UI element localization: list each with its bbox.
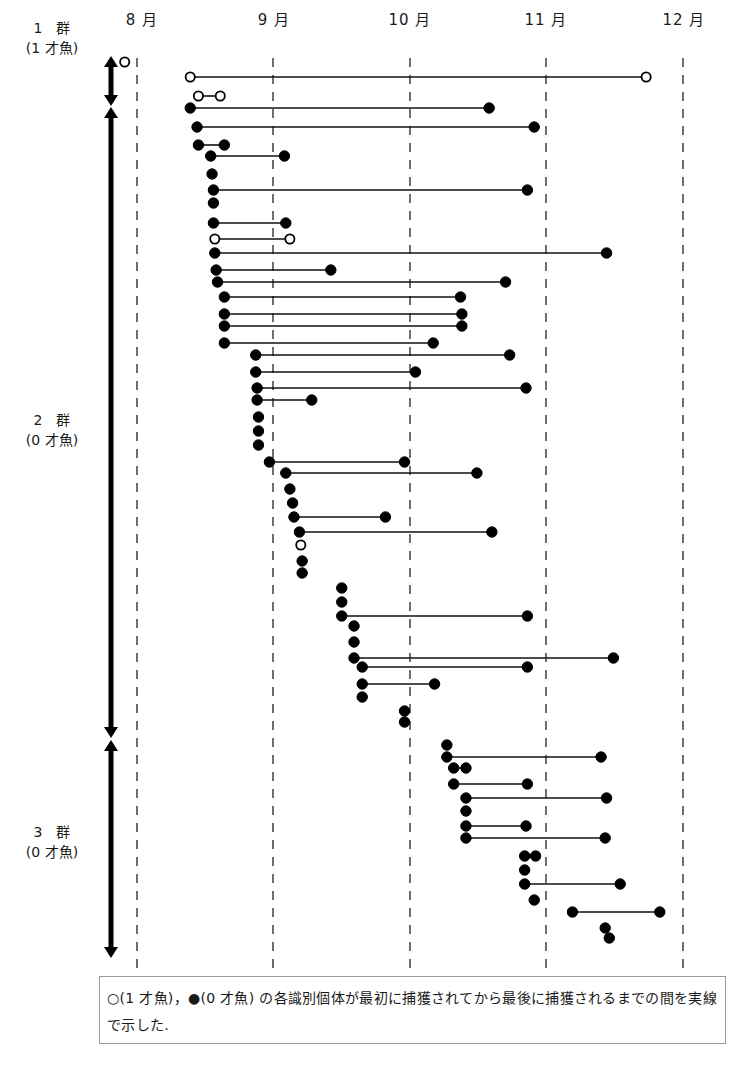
filled-circle-icon xyxy=(461,806,471,816)
filled-circle-icon xyxy=(349,621,359,631)
filled-circle-icon xyxy=(357,692,367,702)
month-label-oct: 10 月 xyxy=(389,8,432,29)
filled-circle-icon xyxy=(212,277,222,287)
capture-record-19 xyxy=(219,338,438,348)
capture-record-11 xyxy=(208,218,291,228)
group-1-label: 1 群 (1 才魚) xyxy=(2,18,102,58)
open-circle-icon xyxy=(642,72,651,81)
arrow-down-icon xyxy=(104,947,118,958)
group-arrows xyxy=(104,56,118,958)
filled-circle-icon xyxy=(399,457,409,467)
filled-circle-icon xyxy=(219,140,229,150)
open-circle-icon xyxy=(216,91,225,100)
filled-circle-icon xyxy=(529,895,539,905)
arrow-up-icon xyxy=(104,740,118,751)
capture-record-21 xyxy=(251,367,421,377)
capture-record-42 xyxy=(357,662,533,672)
capture-record-38 xyxy=(337,611,533,621)
capture-record-59 xyxy=(567,907,665,917)
filled-circle-icon xyxy=(461,833,471,843)
filled-circle-icon xyxy=(208,185,218,195)
group-3-range-arrow xyxy=(104,740,118,958)
capture-timeline-chart xyxy=(0,0,738,1068)
capture-record-16 xyxy=(219,292,466,302)
filled-circle-icon xyxy=(380,512,390,522)
filled-circle-icon xyxy=(522,662,532,672)
group-1-title: 1 群 xyxy=(2,18,102,38)
filled-circle-icon xyxy=(337,583,347,593)
capture-record-15 xyxy=(212,277,510,287)
filled-circle-icon xyxy=(211,265,221,275)
capture-record-39 xyxy=(349,621,359,631)
filled-circle-icon xyxy=(410,367,420,377)
capture-record-1 xyxy=(120,57,129,66)
capture-record-27 xyxy=(264,457,410,467)
filled-circle-icon xyxy=(285,484,295,494)
group-1-range-arrow xyxy=(104,56,118,106)
filled-circle-icon xyxy=(253,412,263,422)
capture-record-25 xyxy=(253,426,263,436)
capture-record-26 xyxy=(253,440,263,450)
filled-circle-icon xyxy=(287,498,297,508)
capture-record-13 xyxy=(210,248,612,258)
capture-record-35 xyxy=(297,568,307,578)
filled-circle-icon xyxy=(219,321,229,331)
filled-circle-icon xyxy=(192,122,202,132)
capture-record-24 xyxy=(253,412,263,422)
filled-circle-icon xyxy=(519,851,529,861)
capture-record-23 xyxy=(252,395,317,405)
figure-caption: ○(1 才魚)，●(0 才魚) の各識別個体が最初に捕獲されてから最後に捕獲され… xyxy=(99,976,726,1044)
capture-record-20 xyxy=(251,350,515,360)
filled-circle-icon xyxy=(252,383,262,393)
filled-circle-icon xyxy=(251,367,261,377)
filled-circle-icon xyxy=(281,468,291,478)
filled-circle-icon xyxy=(448,779,458,789)
capture-record-17 xyxy=(219,309,467,319)
capture-record-53 xyxy=(461,821,531,831)
capture-record-22 xyxy=(252,383,531,393)
open-circle-icon xyxy=(194,91,203,100)
month-gridlines xyxy=(137,58,683,970)
filled-circle-icon xyxy=(448,763,458,773)
filled-circle-icon xyxy=(600,833,610,843)
filled-circle-icon xyxy=(210,248,220,258)
capture-record-9 xyxy=(208,185,532,195)
arrow-down-icon xyxy=(104,95,118,106)
capture-record-49 xyxy=(448,763,471,773)
filled-circle-icon xyxy=(522,185,532,195)
capture-record-44 xyxy=(357,692,367,702)
filled-circle-icon xyxy=(604,933,614,943)
filled-circle-icon xyxy=(399,717,409,727)
open-circle-icon xyxy=(210,234,219,243)
group-2-label: 2 群 (0 才魚) xyxy=(2,410,102,450)
capture-record-54 xyxy=(461,833,611,843)
filled-circle-icon xyxy=(522,611,532,621)
filled-circle-icon xyxy=(337,597,347,607)
filled-circle-icon xyxy=(615,879,625,889)
group-1-age: (1 才魚) xyxy=(2,38,102,58)
capture-record-7 xyxy=(206,151,290,161)
filled-circle-icon xyxy=(461,763,471,773)
filled-circle-icon xyxy=(399,706,409,716)
filled-circle-icon xyxy=(608,653,618,663)
capture-record-40 xyxy=(349,637,359,647)
capture-record-3 xyxy=(194,91,225,100)
group-2-range-arrow xyxy=(104,107,118,738)
capture-record-57 xyxy=(519,879,625,889)
filled-circle-icon xyxy=(461,821,471,831)
capture-record-18 xyxy=(219,321,467,331)
filled-circle-icon xyxy=(461,793,471,803)
filled-circle-icon xyxy=(297,568,307,578)
capture-record-30 xyxy=(287,498,297,508)
filled-circle-icon xyxy=(521,821,531,831)
filled-circle-icon xyxy=(281,218,291,228)
capture-record-2 xyxy=(186,72,651,81)
filled-circle-icon xyxy=(253,426,263,436)
filled-circle-icon xyxy=(193,140,203,150)
filled-circle-icon xyxy=(206,151,216,161)
filled-circle-icon xyxy=(429,679,439,689)
filled-circle-icon xyxy=(504,350,514,360)
group-3-title: 3 群 xyxy=(2,822,102,842)
capture-record-41 xyxy=(349,653,619,663)
filled-circle-icon xyxy=(596,752,606,762)
